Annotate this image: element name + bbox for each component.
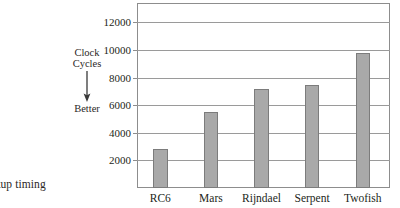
better-label: Better — [58, 103, 116, 115]
bar-chart: 20004000600080001000012000 RC6MarsRijnda… — [137, 3, 390, 188]
caption-fragment: etup timing — [0, 178, 46, 190]
axis-annotation: Clock Cycles Better — [58, 47, 116, 115]
gridline — [137, 22, 390, 23]
y-tick-label: 8000 — [109, 72, 131, 83]
category-label-mars: Mars — [199, 192, 223, 204]
clock-cycles-line-2: Cycles — [58, 58, 116, 69]
bar-rijndael — [254, 89, 269, 188]
y-tick-label: 4000 — [109, 127, 131, 138]
gridline — [137, 78, 390, 79]
gridline — [137, 50, 390, 51]
category-label-serpent: Serpent — [295, 192, 330, 204]
y-tick-label: 10000 — [104, 44, 132, 55]
y-tick-mark — [133, 105, 137, 106]
y-tick-label: 2000 — [109, 155, 131, 166]
y-tick-mark — [133, 133, 137, 134]
bar-serpent — [305, 85, 320, 189]
y-tick-mark — [133, 160, 137, 161]
y-tick-mark — [133, 50, 137, 51]
y-tick-label: 6000 — [109, 100, 131, 111]
bar-mars — [204, 112, 219, 188]
bar-twofish — [356, 53, 371, 188]
y-tick-mark — [133, 78, 137, 79]
arrow-down-icon — [58, 71, 116, 102]
bar-rc6 — [153, 149, 168, 188]
y-tick-label: 12000 — [104, 17, 132, 28]
category-label-rijndael: Rijndael — [242, 192, 281, 204]
category-label-rc6: RC6 — [150, 192, 171, 204]
y-tick-mark — [133, 22, 137, 23]
category-label-twofish: Twofish — [344, 192, 382, 204]
